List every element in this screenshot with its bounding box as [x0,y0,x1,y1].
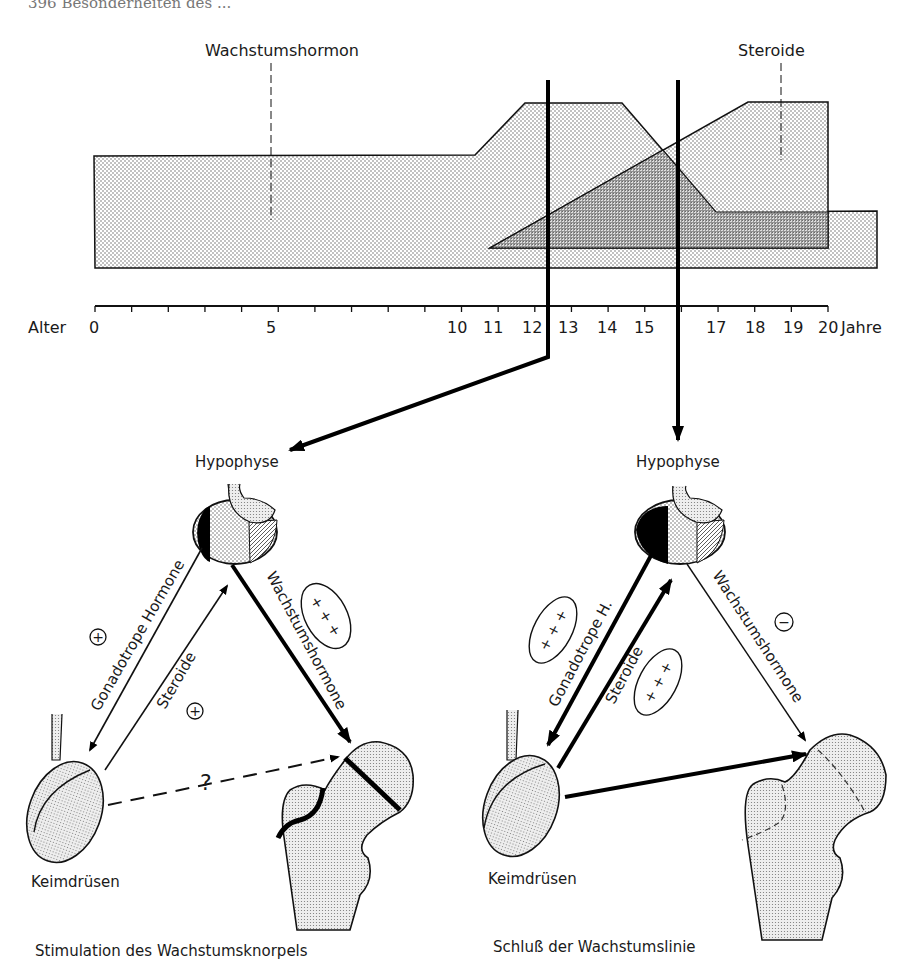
label-growth-hormone: Wachstumshormone [262,568,350,712]
endocrine-growth-figure: 396 Besonderheiten des ... Wachstumshorm… [0,0,923,969]
svg-text:+: + [189,703,201,719]
svg-text:−: − [778,614,790,630]
gonad-icon [469,710,572,867]
tick-label: 19 [783,318,803,337]
tick-label: 15 [634,318,654,337]
pituitary-label: Hypophyse [195,453,279,471]
diagram-closure: Hypophyse Gonadotrope H. Steroide Wachst… [469,453,886,956]
femur-icon [742,734,886,940]
pituitary-icon [193,484,277,564]
tick-label: 10 [447,318,467,337]
label-growth-hormone: Wachstumshormone [709,567,808,706]
gonad-label: Keimdrüsen [31,873,120,891]
tick-label: 12 [522,318,542,337]
diagram-stimulation: Hypophyse ? Gonadotrope Hormone Steroide… [13,453,413,960]
svg-text:+: + [92,629,104,645]
question-mark: ? [200,770,212,795]
gonad-icon [13,714,116,873]
series-label-growth-hormone: Wachstumshormon [205,41,359,60]
hormone-timeline: Wachstumshormon Steroide Alter Jahre 0 5… [28,41,882,450]
caption-closure: Schluß der Wachstumslinie [493,938,696,956]
caption-stimulation: Stimulation des Wachstumsknorpels [35,942,308,960]
axis-label-age: Alter [28,318,67,337]
tick-label: 13 [558,318,578,337]
tick-label: 14 [597,318,617,337]
sign-gonadotropic: + [90,629,106,645]
tick-label: 0 [89,318,99,337]
pituitary-label: Hypophyse [636,453,720,471]
tick-label: 17 [706,318,726,337]
gonad-label: Keimdrüsen [488,870,577,888]
tick-label: 18 [745,318,765,337]
tick-label: 20 [818,318,838,337]
femur-icon [278,742,413,930]
axis-unit-years: Jahre [840,318,882,337]
pituitary-icon [635,486,725,564]
sign-steroids: + [187,703,203,719]
arrow-growth-hormone [687,564,805,740]
page-header: 396 Besonderheiten des ... [28,0,231,12]
tick-label: 11 [483,318,503,337]
series-label-steroids: Steroide [738,41,805,60]
sign-growth-hormone: − [775,613,793,631]
tick-label: 5 [266,318,276,337]
